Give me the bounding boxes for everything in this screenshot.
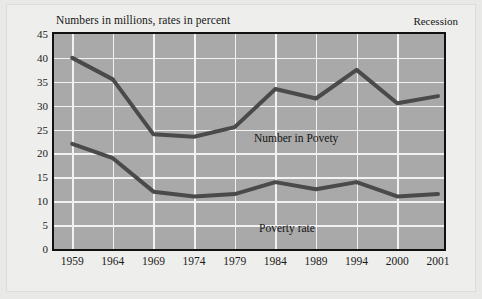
y-tick-label: 20 bbox=[2, 147, 48, 159]
gridline-vertical bbox=[113, 34, 115, 249]
series-label-poverty-rate: Poverty rate bbox=[259, 222, 315, 234]
y-tick-label: 5 bbox=[2, 219, 48, 231]
poverty-chart-figure: Numbers in millions, rates in percent Re… bbox=[0, 0, 482, 299]
y-tick-label: 25 bbox=[2, 124, 48, 136]
y-tick-label: 15 bbox=[2, 171, 48, 183]
x-tick-label: 1974 bbox=[183, 255, 206, 267]
x-tick-label: 1994 bbox=[345, 255, 368, 267]
plot-inner: Number in Povety Poverty rate bbox=[54, 34, 444, 249]
y-tick-label: 30 bbox=[2, 100, 48, 112]
x-tick-label: 1959 bbox=[61, 255, 84, 267]
y-axis: 051015202530354045 bbox=[0, 32, 48, 251]
x-tick-label: 1969 bbox=[142, 255, 165, 267]
x-tick-label: 1984 bbox=[264, 255, 287, 267]
gridline-vertical bbox=[153, 34, 155, 249]
x-axis: 1959196419691974197919841989199420002001 bbox=[52, 255, 446, 277]
series-line-poverty-rate bbox=[72, 144, 438, 197]
chart-title: Numbers in millions, rates in percent bbox=[56, 14, 230, 26]
x-tick-label: 1989 bbox=[304, 255, 327, 267]
x-tick-label: 2000 bbox=[386, 255, 409, 267]
gridline-vertical bbox=[194, 34, 196, 249]
plot-area: Number in Povety Poverty rate bbox=[52, 32, 446, 251]
y-tick-label: 35 bbox=[2, 76, 48, 88]
series-line-number-in-poverty bbox=[72, 58, 438, 137]
y-tick-label: 45 bbox=[2, 28, 48, 40]
gridline-vertical bbox=[235, 34, 237, 249]
x-tick-label: 2001 bbox=[427, 255, 450, 267]
y-tick-label: 10 bbox=[2, 195, 48, 207]
x-tick-label: 1964 bbox=[101, 255, 124, 267]
y-tick-label: 0 bbox=[2, 243, 48, 255]
series-label-number-in-poverty: Number in Povety bbox=[254, 132, 338, 144]
gridline-vertical bbox=[397, 34, 399, 249]
gridline-vertical bbox=[357, 34, 359, 249]
recession-annotation: Recession bbox=[413, 15, 458, 27]
y-tick-label: 40 bbox=[2, 52, 48, 64]
x-tick-label: 1979 bbox=[223, 255, 246, 267]
gridline-vertical bbox=[72, 34, 74, 249]
